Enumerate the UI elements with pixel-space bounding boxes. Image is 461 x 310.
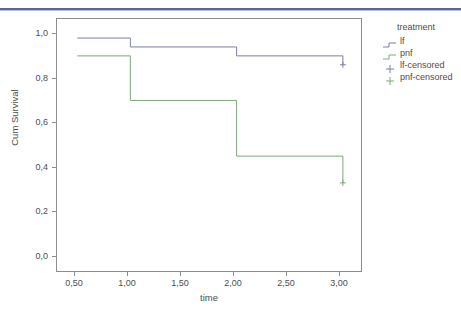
xtick-mark-2-00 [233,272,234,276]
ytick-mark-1-0 [52,33,56,34]
legend-entry-lf-censored[interactable]: lf-censored [383,59,461,70]
xtick-label-0-50: 0,50 [57,278,91,288]
xtick-label-1-00: 1,00 [110,278,144,288]
legend-marker-step-line-icon [383,48,397,58]
x-axis-title: time [56,292,362,303]
xtick-label-2-50: 2,50 [269,278,303,288]
y-axis-title: Cum Survival [9,78,20,158]
xtick-mark-1-50 [180,272,181,276]
legend-entry-pnf[interactable]: pnf [383,47,461,58]
plot-canvas [56,18,362,272]
legend-label: pnf-censored [400,72,453,82]
series-line-lf [77,38,343,65]
ytick-label-0-6: 0,6 [20,117,48,127]
xtick-mark-2-50 [286,272,287,276]
xtick-label-3-00: 3,00 [322,278,356,288]
legend-entry-lf[interactable]: lf [383,35,461,46]
legend-label: pnf [400,48,413,58]
legend-label: lf-censored [400,60,445,70]
survival-chart: 1,0 0,8 0,6 0,4 0,2 0,0 0,50 1,00 1,50 2… [0,0,461,310]
ytick-mark-0-6 [52,122,56,123]
xtick-mark-0-50 [74,272,75,276]
censored-marker-lf [340,62,346,68]
legend-marker-step-line-icon [383,36,397,46]
ytick-mark-0-2 [52,211,56,212]
xtick-label-1-50: 1,50 [163,278,197,288]
censored-marker-pnf [340,180,346,186]
xtick-mark-1-00 [127,272,128,276]
legend: treatment lfpnflf-censoredpnf-censored [383,22,461,83]
series-line-pnf [77,56,343,183]
legend-marker-plus-icon [383,60,397,70]
legend-entries: lfpnflf-censoredpnf-censored [383,35,461,82]
xtick-mark-3-00 [339,272,340,276]
ytick-mark-0-8 [52,78,56,79]
series-layer [77,38,346,186]
ytick-mark-0-4 [52,167,56,168]
xtick-label-2-00: 2,00 [216,278,250,288]
ytick-mark-0-0 [52,256,56,257]
ytick-label-0-2: 0,2 [20,206,48,216]
ytick-label-0-8: 0,8 [20,73,48,83]
legend-title: treatment [397,22,461,32]
ytick-label-0-4: 0,4 [20,162,48,172]
ytick-label-1-0: 1,0 [20,28,48,38]
legend-label: lf [400,36,405,46]
legend-marker-plus-icon [383,72,397,82]
ytick-label-0-0: 0,0 [20,251,48,261]
legend-entry-pnf-censored[interactable]: pnf-censored [383,71,461,82]
